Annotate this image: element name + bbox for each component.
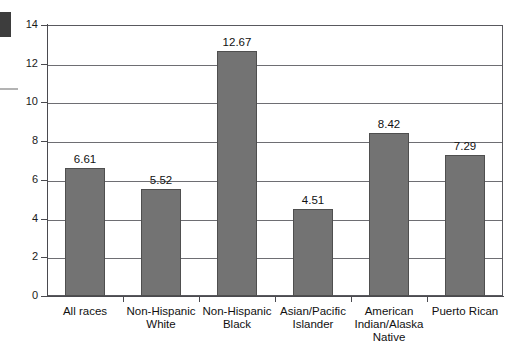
y-tick-mark (41, 64, 47, 65)
y-tick-label: 10 (16, 96, 38, 107)
y-tick-label: 0 (16, 290, 38, 301)
gridline (48, 258, 502, 259)
scan-artifact-line (0, 88, 18, 90)
y-axis-line (47, 24, 48, 297)
bar-chart-figure: 02468101214 6.615.5212.674.518.427.29 Al… (0, 0, 524, 352)
bar-value-label: 7.29 (435, 140, 495, 152)
y-tick-mark (41, 102, 47, 103)
bar (217, 51, 257, 296)
y-tick-label: 4 (16, 213, 38, 224)
y-tick-label: 14 (16, 19, 38, 30)
x-category-label: Puerto Rican (417, 305, 513, 318)
x-tick-mark (275, 297, 276, 302)
plot-area (47, 25, 503, 296)
gridline (48, 220, 502, 221)
y-tick-mark (41, 25, 47, 26)
y-tick-mark (41, 257, 47, 258)
gridline (48, 103, 502, 104)
bar (141, 189, 181, 296)
bar (445, 155, 485, 296)
y-tick-mark (41, 219, 47, 220)
y-tick-mark (41, 141, 47, 142)
scan-artifact-block (0, 12, 11, 37)
gridline (48, 65, 502, 66)
bar-value-label: 12.67 (207, 36, 267, 48)
gridline (48, 142, 502, 143)
bar (65, 168, 105, 296)
x-tick-mark (123, 297, 124, 302)
bar-value-label: 4.51 (283, 194, 343, 206)
y-tick-mark (41, 296, 47, 297)
x-tick-mark (427, 297, 428, 302)
x-tick-mark (199, 297, 200, 302)
bar (293, 209, 333, 296)
bar-value-label: 5.52 (131, 174, 191, 186)
bar-value-label: 8.42 (359, 118, 419, 130)
gridline (48, 181, 502, 182)
y-tick-label: 8 (16, 135, 38, 146)
y-tick-label: 2 (16, 251, 38, 262)
bar (369, 133, 409, 296)
y-tick-label: 6 (16, 174, 38, 185)
bar-value-label: 6.61 (55, 153, 115, 165)
x-tick-mark (351, 297, 352, 302)
y-tick-mark (41, 180, 47, 181)
y-tick-label: 12 (16, 58, 38, 69)
